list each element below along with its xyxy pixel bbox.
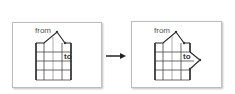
from-label: from	[154, 26, 170, 35]
grid-shape-after	[132, 22, 221, 87]
from-label: from	[35, 26, 51, 35]
before-panel: from to	[12, 22, 102, 88]
to-label: to	[183, 52, 191, 61]
grid-shape-before	[13, 23, 101, 87]
after-panel: from to	[131, 21, 222, 88]
to-label: to	[64, 52, 72, 61]
